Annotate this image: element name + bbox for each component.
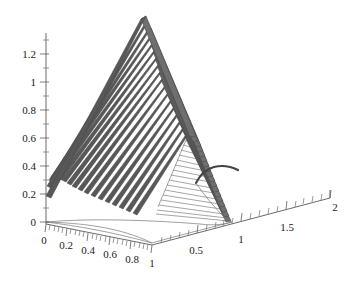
y-tick-label-1_5: 1.5 [280, 221, 294, 233]
x-tick-label-0_2: 0.2 [59, 239, 73, 251]
plot-canvas: 1.2 1 0.8 0.6 0.4 0.2 0 [0, 0, 352, 291]
z-tick-label-1_2: 1.2 [22, 48, 36, 60]
z-tick-label-1: 1 [31, 76, 37, 88]
x-tick-label-0_6: 0.6 [103, 248, 117, 260]
z-tick-label-0: 0 [31, 216, 37, 228]
x-tick-label-0_8: 0.8 [125, 253, 139, 265]
x-tick-label-0: 0 [41, 234, 47, 246]
z-tick-label-0_2: 0.2 [22, 188, 36, 200]
z-tick-label-0_8: 0.8 [22, 104, 36, 116]
y-tick-label-1: 1 [238, 233, 244, 245]
x-tick-label-0_4: 0.4 [81, 244, 95, 256]
plot-background [0, 0, 352, 291]
y-tick-label-2: 2 [332, 201, 338, 213]
z-tick-label-0_4: 0.4 [22, 160, 36, 172]
plot-figure: 1.2 1 0.8 0.6 0.4 0.2 0 [0, 0, 352, 291]
y-tick-label-0_5: 0.5 [189, 244, 203, 256]
x-tick-label-1: 1 [149, 257, 155, 269]
z-tick-label-0_6: 0.6 [22, 132, 36, 144]
